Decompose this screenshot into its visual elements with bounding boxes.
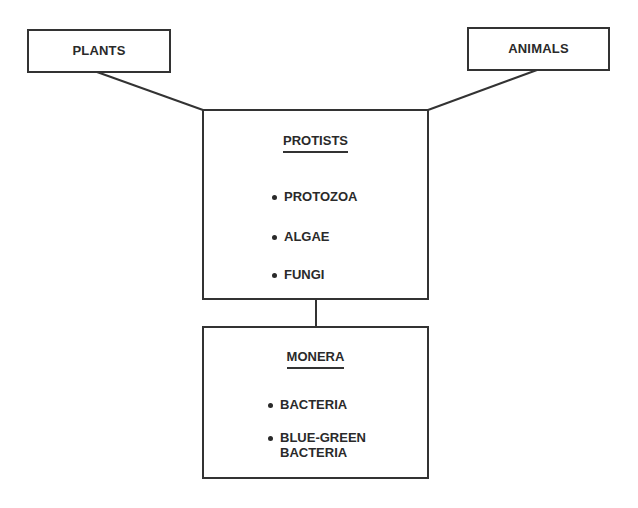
protists-item-fungi: FUNGI [284, 267, 324, 282]
bullet-icon [268, 436, 273, 441]
monera-box: MONERA BACTERIA BLUE-GREEN BACTERIA [202, 326, 429, 479]
monera-item-blue-green-cont: BACTERIA [280, 445, 347, 460]
bullet-icon [272, 235, 277, 240]
bullet-icon [272, 273, 277, 278]
protists-item-protozoa: PROTOZOA [284, 189, 357, 204]
monera-item-bacteria: BACTERIA [280, 397, 347, 412]
bullet-icon [268, 403, 273, 408]
monera-item-blue-green: BLUE-GREEN [280, 430, 366, 445]
animals-label: ANIMALS [469, 41, 608, 56]
bullet-icon [272, 195, 277, 200]
animals-box: ANIMALS [467, 27, 610, 71]
protists-box: PROTISTS PROTOZOA ALGAE FUNGI [202, 109, 429, 300]
monera-title: MONERA [204, 349, 427, 369]
monera-title-text: MONERA [287, 349, 345, 369]
protists-title-text: PROTISTS [283, 133, 348, 153]
protists-item-algae: ALGAE [284, 229, 330, 244]
plants-label: PLANTS [29, 43, 169, 58]
edge-plants-protists [97, 72, 203, 110]
plants-box: PLANTS [27, 29, 171, 73]
protists-title: PROTISTS [204, 133, 427, 153]
edge-animals-protists [428, 70, 537, 110]
